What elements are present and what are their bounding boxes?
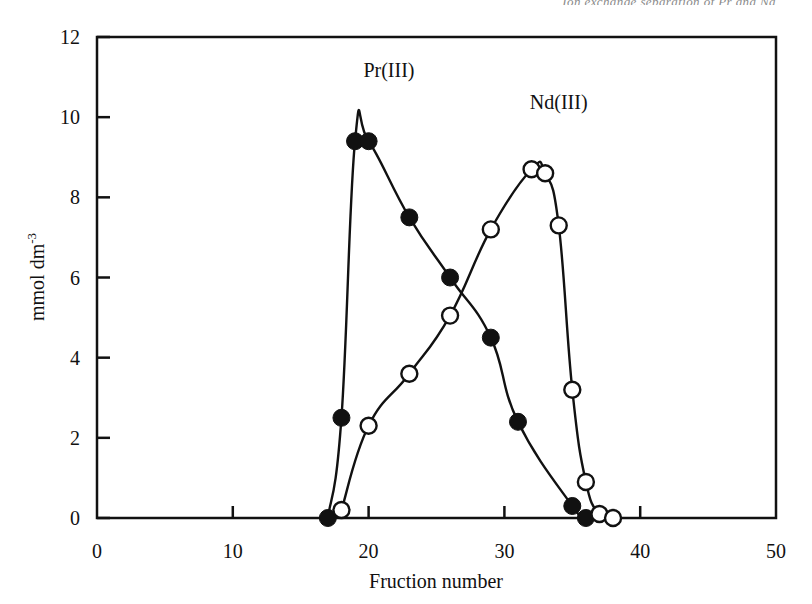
series-line: [341, 162, 613, 519]
y-tick-label: 8: [70, 186, 80, 208]
y-axis-ticks: [97, 37, 110, 518]
y-axis-title: mmol dm-3: [24, 233, 48, 321]
data-point-marker: [333, 409, 350, 426]
y-axis-title-superscript: -3: [24, 233, 39, 244]
y-tick-label: 4: [70, 347, 80, 369]
data-point-marker: [401, 209, 418, 226]
data-point-marker: [537, 165, 553, 181]
y-tick-label: 6: [70, 267, 80, 289]
series-annotations: Pr(III)Nd(III): [363, 59, 587, 114]
data-point-marker: [401, 366, 417, 382]
y-axis-title-text: mmol dm: [26, 243, 48, 321]
y-tick-label: 2: [70, 427, 80, 449]
x-tick-label: 0: [92, 540, 102, 562]
x-axis-title: Fruction number: [369, 570, 503, 592]
data-point-marker: [442, 269, 459, 286]
data-point-marker: [360, 133, 377, 150]
data-point-marker: [605, 510, 621, 526]
x-tick-label: 40: [630, 540, 650, 562]
y-tick-label: 0: [70, 507, 80, 529]
series-layer: [319, 110, 621, 526]
x-axis-tick-labels: 01020304050: [92, 540, 786, 562]
data-point-marker: [551, 217, 567, 233]
figure-container: Ion exchange separation of Pr and Nd 024…: [0, 0, 812, 604]
series-annotation: Pr(III): [363, 59, 414, 82]
y-axis-title-group: mmol dm-3: [24, 233, 48, 321]
elution-chart: 024681012 01020304050 Pr(III)Nd(III) Fru…: [0, 0, 812, 604]
data-point-marker: [564, 382, 580, 398]
y-tick-label: 10: [60, 106, 80, 128]
x-tick-label: 50: [766, 540, 786, 562]
data-point-marker: [442, 308, 458, 324]
y-axis-tick-labels: 024681012: [60, 26, 80, 529]
data-point-marker: [564, 497, 581, 514]
data-point-marker: [333, 502, 349, 518]
plot-frame: [97, 37, 776, 518]
x-tick-label: 30: [494, 540, 514, 562]
data-point-marker: [483, 221, 499, 237]
data-point-marker: [361, 418, 377, 434]
series-ndiii: [333, 161, 621, 526]
series-annotation: Nd(III): [530, 91, 588, 114]
data-point-marker: [509, 413, 526, 430]
data-point-marker: [578, 474, 594, 490]
page-running-head: Ion exchange separation of Pr and Nd: [562, 0, 776, 5]
x-tick-label: 10: [223, 540, 243, 562]
data-point-marker: [482, 329, 499, 346]
y-tick-label: 12: [60, 26, 80, 48]
x-tick-label: 20: [359, 540, 379, 562]
